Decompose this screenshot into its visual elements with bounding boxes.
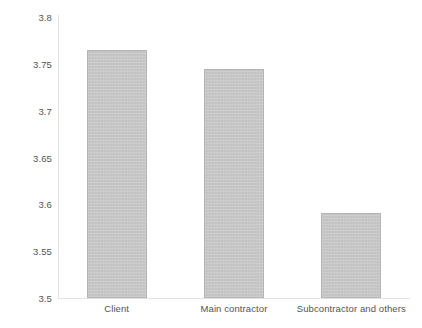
x-axis-tick-label: Subcontractor and others <box>297 303 406 314</box>
bars-layer: ClientMain contractorSubcontractor and o… <box>0 0 422 328</box>
bar <box>87 50 147 298</box>
bar-chart: 3.53.553.63.653.73.753.8 ClientMain cont… <box>0 0 422 328</box>
bar <box>321 213 381 298</box>
x-axis-tick-label: Client <box>104 303 129 314</box>
bar <box>204 69 264 298</box>
x-axis-tick-label: Main contractor <box>201 303 268 314</box>
